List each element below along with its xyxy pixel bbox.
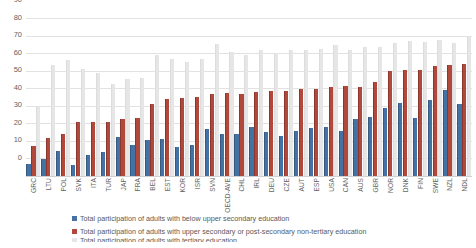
- x-label-cell: SVN: [204, 178, 219, 210]
- bar-group: [338, 18, 353, 176]
- x-label-cell: USA: [323, 178, 338, 210]
- bar: [165, 99, 169, 176]
- bar-group: [368, 18, 383, 176]
- bar: [343, 86, 347, 176]
- bar-group: [219, 18, 234, 176]
- bar: [403, 70, 407, 176]
- bar-group: [115, 18, 130, 176]
- bar: [373, 82, 377, 176]
- x-label-cell: SWE: [427, 178, 442, 210]
- bar: [180, 98, 184, 176]
- bar: [433, 66, 437, 176]
- bar-group: [26, 18, 41, 176]
- bar: [279, 136, 283, 176]
- legend-item[interactable]: Total participation of adults with upper…: [72, 225, 472, 238]
- bar-group: [204, 18, 219, 176]
- bar: [170, 59, 174, 176]
- legend-item[interactable]: Total participation of adults with terti…: [72, 238, 472, 242]
- bar-group: [308, 18, 323, 176]
- x-label-cell: NOR: [383, 178, 398, 210]
- bar: [56, 151, 60, 176]
- x-label-cell: SVK: [71, 178, 86, 210]
- bar: [413, 118, 417, 176]
- x-label-cell: ISR: [189, 178, 204, 210]
- bar: [120, 119, 124, 176]
- bar-group: [383, 18, 398, 176]
- bar: [101, 152, 105, 176]
- bar: [289, 50, 293, 176]
- bar: [200, 59, 204, 176]
- legend-swatch: [72, 216, 77, 221]
- x-label-cell: NZL: [442, 178, 457, 210]
- bar: [383, 108, 387, 176]
- x-tick-label: DNK: [401, 178, 408, 192]
- bar: [348, 50, 352, 176]
- bar: [294, 131, 298, 176]
- bar-group: [412, 18, 427, 176]
- bar: [91, 122, 95, 176]
- bar: [239, 94, 243, 177]
- bar: [116, 137, 120, 176]
- x-label-cell: ESP: [308, 178, 323, 210]
- x-tick-label: POL: [60, 178, 67, 192]
- y-tick-label: 20: [14, 119, 22, 127]
- x-tick-label: NZL: [446, 178, 453, 191]
- bar: [249, 127, 253, 176]
- bar: [437, 40, 441, 176]
- y-tick-label: 60: [14, 49, 22, 57]
- bar-group: [397, 18, 412, 176]
- bar-group: [160, 18, 175, 176]
- y-tick-label: 70: [14, 31, 22, 39]
- y-tick-label: 40: [14, 84, 22, 92]
- bar: [353, 119, 357, 176]
- bar: [26, 164, 30, 176]
- x-label-cell: ITA: [85, 178, 100, 210]
- x-tick-label: ISR: [193, 178, 200, 189]
- x-label-cell: GRC: [26, 178, 41, 210]
- bar: [244, 55, 248, 176]
- bar: [135, 118, 139, 176]
- bar: [314, 89, 318, 176]
- x-label-cell: DEU: [264, 178, 279, 210]
- x-label-cell: TUR: [100, 178, 115, 210]
- x-label-cell: CHL: [234, 178, 249, 210]
- bar: [96, 73, 100, 176]
- bar: [254, 92, 258, 176]
- x-label-cell: AUT: [293, 178, 308, 210]
- bar: [398, 103, 402, 176]
- bar: [457, 104, 461, 176]
- bar: [462, 64, 466, 176]
- bar-group: [279, 18, 294, 176]
- bar: [368, 117, 372, 176]
- y-tick-label: 10: [14, 136, 22, 144]
- bar: [210, 94, 214, 177]
- bar: [329, 87, 333, 176]
- bar: [418, 70, 422, 176]
- bar: [130, 145, 134, 176]
- bar: [378, 47, 382, 176]
- x-tick-label: USA: [327, 178, 334, 192]
- bar-group: [264, 18, 279, 176]
- bar: [428, 100, 432, 176]
- x-tick-label: CZE: [283, 178, 290, 192]
- x-label-cell: EST: [160, 178, 175, 210]
- legend-label: Total participation of adults with terti…: [80, 238, 237, 242]
- x-tick-label: IRL: [253, 178, 260, 189]
- bar-group: [145, 18, 160, 176]
- bar: [81, 69, 85, 176]
- x-label-cell: FRA: [130, 178, 145, 210]
- x-tick-label: LTU: [45, 178, 52, 190]
- bar: [229, 52, 233, 176]
- bar: [51, 65, 55, 176]
- y-axis: 0102030405060708090: [0, 0, 26, 176]
- bar: [31, 146, 35, 176]
- bar: [269, 91, 273, 176]
- bar-group: [85, 18, 100, 176]
- legend-item[interactable]: Total participation of adults with below…: [72, 212, 472, 225]
- bar: [324, 127, 328, 176]
- bar: [388, 71, 392, 176]
- bar-group: [130, 18, 145, 176]
- bar: [443, 90, 447, 176]
- x-tick-label: CAN: [342, 178, 349, 192]
- bar-group: [293, 18, 308, 176]
